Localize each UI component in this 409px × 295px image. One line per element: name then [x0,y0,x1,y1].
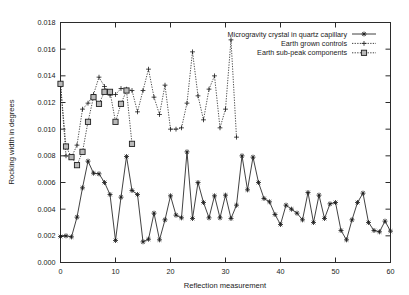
y-tick-label: 0.002 [38,231,56,240]
x-tick-label: 60 [387,267,395,276]
x-tick-label: 0 [59,267,63,276]
legend-label-3: Earth sub-peak components [257,48,347,57]
data-point [91,95,96,100]
y-tick-label: 0.000 [38,258,56,267]
y-tick-label: 0.008 [38,151,56,160]
legend-label-1: Microgravity crystal in quartz capillary [228,30,348,39]
x-tick-label: 40 [277,267,285,276]
data-point [129,141,134,146]
x-tick-label: 10 [112,267,120,276]
x-tick-label: 30 [222,267,230,276]
data-point [58,81,63,86]
data-point [118,101,123,106]
x-tick-label: 50 [332,267,340,276]
data-point [113,119,118,124]
x-axis-title: Reflection measurement [184,281,267,290]
y-tick-label: 0.014 [38,71,56,80]
chart-container: 0.0000.0020.0040.0060.0080.0100.0120.014… [0,0,409,295]
data-point [63,144,68,149]
y-tick-label: 0.010 [38,125,56,134]
data-point [102,89,107,94]
data-point [80,149,85,154]
data-point [124,88,129,93]
data-point [85,119,90,124]
chart-background [0,0,409,295]
y-tick-label: 0.016 [38,45,56,54]
y-tick-label: 0.004 [38,205,56,214]
y-tick-label: 0.006 [38,178,56,187]
x-tick-label: 20 [167,267,175,276]
data-point [69,155,74,160]
y-axis-title: Rocking width in degrees [7,99,16,184]
legend-sample-marker [361,50,366,55]
data-point [74,163,79,168]
data-point [96,101,101,106]
legend-label-2: Earth grown controls [281,39,347,48]
data-point [107,89,112,94]
y-tick-label: 0.012 [38,98,56,107]
rocking-width-line-chart: 0.0000.0020.0040.0060.0080.0100.0120.014… [0,0,409,295]
y-tick-label: 0.018 [38,18,56,27]
